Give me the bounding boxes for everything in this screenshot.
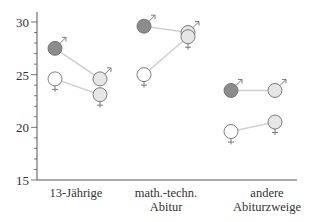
connector-line [55, 48, 100, 79]
female-symbol-icon [48, 72, 62, 92]
male-arrow-shaft [236, 79, 242, 85]
y-tick-label: 15 [16, 173, 29, 188]
male-symbol-icon [137, 15, 155, 33]
y-axis: 15202530 [16, 12, 297, 188]
connector-line [144, 37, 188, 75]
male-arrow-shaft [280, 79, 286, 85]
male-arrow-shaft [105, 68, 111, 74]
marker-circle [224, 125, 238, 139]
marker-circle [137, 68, 151, 82]
x-axis-categories: 13-Jährigemath.-techn.AbiturandereAbitur… [50, 186, 302, 214]
male-symbol-icon [93, 68, 111, 86]
marker-circle [48, 72, 62, 86]
y-tick-label: 20 [16, 120, 29, 135]
marker-circle [181, 30, 195, 44]
y-tick-label: 30 [16, 15, 29, 30]
male-arrow-shaft [60, 37, 66, 43]
female-symbol-icon [224, 125, 238, 145]
x-category-label: Abiturzweige [233, 200, 301, 214]
x-category-label: andere [250, 186, 284, 200]
connector-lines [55, 26, 275, 131]
male-symbol-icon [224, 79, 242, 97]
female-symbol-icon [93, 88, 107, 108]
marker-circle [268, 115, 282, 129]
male-symbol-icon [268, 79, 286, 97]
marker-circle [93, 88, 107, 102]
x-category-label: Abitur [150, 200, 183, 214]
female-symbol-icon [181, 30, 195, 50]
female-symbol-icon [137, 68, 151, 88]
chart: 15202530 13-Jährigemath.-techn.Abiturand… [0, 0, 316, 222]
x-category-label: 13-Jährige [50, 186, 103, 200]
y-tick-label: 25 [16, 68, 29, 83]
data-markers [48, 15, 286, 144]
male-arrow-shaft [149, 15, 155, 21]
x-category-label: math.-techn. [135, 186, 197, 200]
male-symbol-icon [48, 37, 66, 55]
male-arrow-shaft [193, 22, 199, 28]
female-symbol-icon [268, 115, 282, 135]
